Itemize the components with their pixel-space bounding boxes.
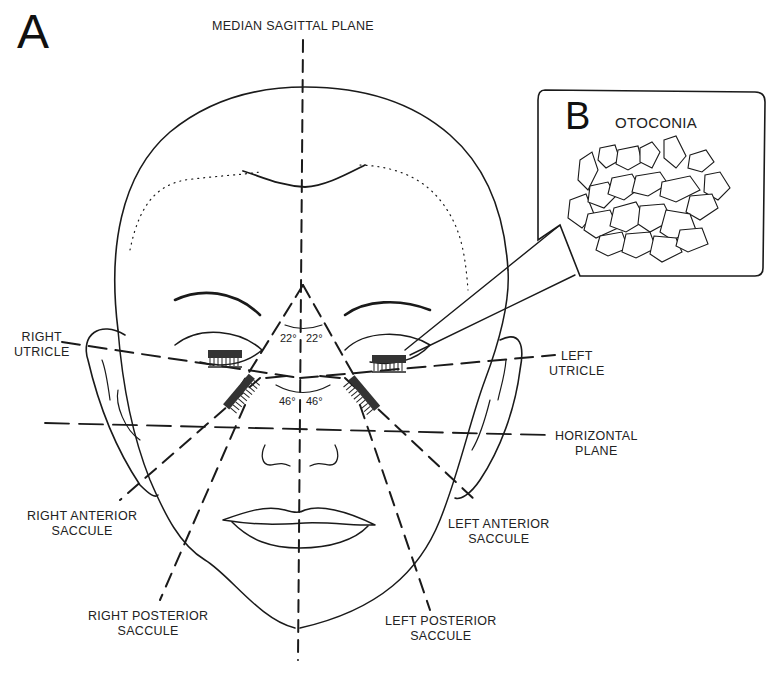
label-line: SACCULE <box>27 524 137 539</box>
saccule-46-arc <box>276 385 330 393</box>
left-posterior-saccule-line <box>360 405 430 610</box>
otolith-orientation-figure: A B OTOCONIA MEDIAN SAGITTAL PLANE RIGHT… <box>0 0 767 675</box>
label-line: LEFT <box>549 349 605 364</box>
left-eyebrow <box>345 302 430 315</box>
label-line: LEFT ANTERIOR <box>448 517 550 532</box>
right-saccule-tick <box>266 376 286 378</box>
label-line: SACCULE <box>385 629 497 644</box>
horizontal-plane-line <box>45 423 548 435</box>
utricle-angle-left: 22° <box>280 332 297 344</box>
label-line: RIGHT POSTERIOR <box>88 609 208 624</box>
utricle-22-arc <box>285 325 322 329</box>
left-saccule-tick <box>320 376 340 378</box>
right-anterior-saccule-label: RIGHT ANTERIOR SACCULE <box>27 509 137 539</box>
face-contour-right-side <box>118 330 295 628</box>
face-contour-left-side <box>300 270 508 628</box>
panel-a-letter: A <box>17 4 49 59</box>
left-posterior-saccule-label: LEFT POSTERIOR SACCULE <box>385 614 497 644</box>
forehead-crease <box>243 165 365 187</box>
right-saccule-macula <box>223 374 261 415</box>
right-eyebrow <box>175 293 260 315</box>
label-line: SACCULE <box>88 624 208 639</box>
label-line: HORIZONTAL <box>555 429 638 444</box>
label-line: RIGHT <box>14 330 70 345</box>
label-line: UTRICLE <box>14 345 70 360</box>
left-anterior-saccule-label: LEFT ANTERIOR SACCULE <box>448 517 550 547</box>
right-utricle-label: RIGHT UTRICLE <box>14 330 70 360</box>
horizontal-plane-label: HORIZONTAL PLANE <box>555 429 638 459</box>
left-utricle-label: LEFT UTRICLE <box>549 349 605 379</box>
otoconia-title: OTOCONIA <box>615 115 697 130</box>
label-line: LEFT POSTERIOR <box>385 614 497 629</box>
hairline-dots <box>130 165 468 290</box>
label-line: UTRICLE <box>549 364 605 379</box>
callout-pointer <box>405 225 575 355</box>
right-posterior-saccule-label: RIGHT POSTERIOR SACCULE <box>88 609 208 639</box>
median-sagittal-plane-line <box>298 40 303 660</box>
label-line: RIGHT ANTERIOR <box>27 509 137 524</box>
right-posterior-saccule-line <box>160 405 245 600</box>
median-sagittal-plane-label: MEDIAN SAGITTAL PLANE <box>212 19 374 34</box>
left-utricle-plane-line <box>300 355 555 378</box>
head-outline <box>115 87 508 330</box>
label-line: SACCULE <box>448 532 550 547</box>
saccule-angle-right: 46° <box>306 395 323 407</box>
saccule-angle-left: 46° <box>279 395 296 407</box>
panel-b-letter: B <box>565 95 590 138</box>
utricle-angle-right: 22° <box>306 332 323 344</box>
label-line: PLANE <box>555 444 638 459</box>
right-ear-inner <box>102 360 140 440</box>
face-illustration <box>0 0 767 675</box>
